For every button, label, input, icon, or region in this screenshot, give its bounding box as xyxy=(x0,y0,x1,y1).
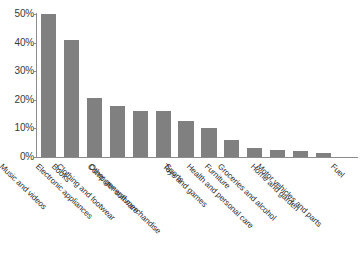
bar-chart: 0%10%20%30%40%50% Music and videosBooksE… xyxy=(0,0,364,271)
x-tick-label: Sports xyxy=(163,162,186,185)
y-tick-label: 50% xyxy=(0,9,34,19)
x-tick-label: Electronic appliances xyxy=(34,162,94,221)
bar xyxy=(133,111,148,157)
x-tick-label: Other general merchandise xyxy=(87,162,163,236)
x-tick-label: Books xyxy=(49,162,71,184)
x-tick-label: Furniture xyxy=(203,162,232,191)
bar xyxy=(316,153,331,157)
y-tick-label: 30% xyxy=(0,66,34,76)
y-tick-label: 40% xyxy=(0,38,34,48)
x-tick-label: Toys and games xyxy=(161,162,209,209)
y-axis-tick-labels: 0%10%20%30%40%50% xyxy=(0,0,34,271)
bar xyxy=(87,98,102,157)
bar xyxy=(110,106,125,157)
bar xyxy=(293,151,308,157)
bar xyxy=(270,150,285,157)
y-tick-mark xyxy=(33,14,36,15)
x-tick-label: Computer software xyxy=(86,162,141,215)
x-tick-label: Fuel xyxy=(329,162,346,179)
y-tick-label: 20% xyxy=(0,95,34,105)
y-tick-mark xyxy=(33,43,36,44)
y-tick-label: 10% xyxy=(0,123,34,133)
y-tick-label: 0% xyxy=(0,152,34,162)
x-tick-label: Clothing and footwear xyxy=(55,162,117,222)
x-tick-label: Home and garden xyxy=(248,162,300,213)
x-tick-label: Groceries and alcohol xyxy=(215,162,277,222)
bar xyxy=(224,140,239,157)
y-tick-mark xyxy=(33,157,36,158)
bar-series xyxy=(37,0,358,158)
y-tick-mark xyxy=(33,71,36,72)
bar xyxy=(41,14,56,157)
bar xyxy=(247,148,262,157)
bar xyxy=(178,121,193,157)
x-tick-label: Health and personal care xyxy=(185,162,255,230)
x-tick-label: Motor vehicles and parts xyxy=(255,162,324,229)
y-tick-mark xyxy=(33,100,36,101)
bar xyxy=(201,128,216,157)
y-tick-mark xyxy=(33,128,36,129)
bar xyxy=(156,111,171,157)
bar xyxy=(64,40,79,157)
